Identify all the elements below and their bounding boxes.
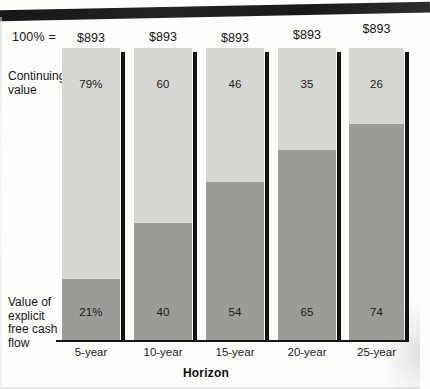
- segment-explicit-fcf-15-year[interactable]: 54: [206, 182, 264, 340]
- bar-total-5-year: $893: [62, 31, 120, 45]
- x-axis-title: Horizon: [146, 366, 266, 380]
- segment-explicit-fcf-10-year[interactable]: 40: [134, 223, 192, 340]
- bar-total-25-year: $893: [349, 22, 404, 36]
- bar-5-year[interactable]: 79%21%: [62, 48, 120, 340]
- segment-label-explicit-fcf-10-year: 40: [134, 306, 192, 318]
- x-tick-label-15-year: 15-year: [202, 346, 268, 358]
- legend-label-explicit-fcf-line2: explicit: [8, 310, 60, 324]
- segment-explicit-fcf-5-year[interactable]: 21%: [62, 279, 120, 340]
- segment-label-explicit-fcf-15-year: 54: [206, 306, 264, 318]
- bar-shadow: [121, 52, 125, 342]
- segment-continuing-value-10-year[interactable]: 60: [134, 48, 192, 223]
- segment-label-continuing-value-15-year: 46: [206, 78, 264, 90]
- bar-total-15-year: $893: [206, 31, 264, 45]
- segment-label-explicit-fcf-20-year: 65: [278, 306, 336, 318]
- segment-continuing-value-20-year[interactable]: 35: [278, 48, 336, 150]
- bar-total-20-year: $893: [278, 28, 336, 42]
- segment-continuing-value-15-year[interactable]: 46: [206, 48, 264, 182]
- legend-label-explicit-fcf-line3: free cash: [8, 323, 60, 337]
- segment-explicit-fcf-25-year[interactable]: 74: [349, 124, 404, 340]
- segment-label-continuing-value-25-year: 26: [349, 78, 404, 90]
- bar-20-year[interactable]: 3565: [278, 48, 336, 340]
- legend-label-continuing-value-line2: value: [8, 84, 60, 98]
- bar-25-year[interactable]: 2674: [349, 48, 404, 340]
- segment-explicit-fcf-20-year[interactable]: 65: [278, 150, 336, 340]
- bar-total-10-year: $893: [134, 30, 192, 44]
- segment-continuing-value-5-year[interactable]: 79%: [62, 48, 120, 279]
- legend-label-explicit-fcf-line1: Value of: [8, 296, 60, 310]
- bar-shadow: [405, 52, 409, 342]
- x-tick-label-5-year: 5-year: [58, 346, 124, 358]
- x-tick-label-10-year: 10-year: [130, 346, 196, 358]
- segment-label-explicit-fcf-25-year: 74: [349, 306, 404, 318]
- bar-shadow: [337, 52, 341, 342]
- bar-shadow: [265, 52, 269, 342]
- segment-label-continuing-value-20-year: 35: [278, 78, 336, 90]
- bar-shadow: [193, 52, 197, 342]
- segment-label-continuing-value-10-year: 60: [134, 78, 192, 90]
- x-tick-label-25-year: 25-year: [345, 346, 408, 358]
- bar-10-year[interactable]: 6040: [134, 48, 192, 340]
- segment-label-continuing-value-5-year: 79%: [62, 78, 120, 90]
- legend-label-continuing-value: Continuing value: [8, 70, 60, 97]
- legend-label-continuing-value-line1: Continuing: [8, 70, 60, 84]
- segment-continuing-value-25-year[interactable]: 26: [349, 48, 404, 124]
- bar-15-year[interactable]: 4654: [206, 48, 264, 340]
- x-axis-line: [56, 340, 408, 342]
- legend-label-explicit-fcf: Value of explicit free cash flow: [8, 296, 60, 350]
- segment-label-explicit-fcf-5-year: 21%: [62, 306, 120, 318]
- x-tick-label-20-year: 20-year: [274, 346, 340, 358]
- percent-equals-note: 100% =: [12, 30, 56, 44]
- legend-label-explicit-fcf-line4: flow: [8, 337, 60, 351]
